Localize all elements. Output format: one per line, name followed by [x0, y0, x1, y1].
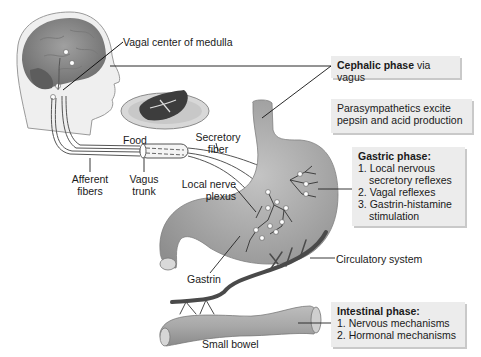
label-secretory-line1: Secretory	[194, 131, 242, 143]
parasympathetics-line2: pepsin and acid production	[337, 114, 466, 126]
label-vagal-center: Vagal center of medulla	[123, 36, 233, 48]
label-small-bowel: Small bowel	[202, 338, 259, 350]
label-secretory-line2: fiber	[194, 143, 242, 155]
label-vagus-line1: Vagus	[124, 173, 164, 185]
gastric-phase-item-1: 1. Local nervous secretory reflexes	[358, 162, 459, 186]
intestinal-phase-item-2: 2. Hormonal mechanisms	[337, 329, 459, 341]
parasympathetics-box: Parasympathetics excite pepsin and acid …	[331, 99, 472, 133]
label-secretory-fiber: Secretory fiber	[194, 131, 242, 155]
gastric-phase-item-3: 3. Gastrin-histamine stimulation	[358, 198, 459, 222]
label-local-nerve-plexus: Local nerve plexus	[180, 178, 236, 202]
cephalic-phase-title: Cephalic phase	[337, 59, 414, 71]
label-gastrin: Gastrin	[187, 273, 221, 285]
label-local-nerve-line1: Local nerve	[180, 178, 236, 190]
gastric-phase-box: Gastric phase: 1. Local nervous secretor…	[352, 147, 465, 226]
food-plate-illustration	[121, 90, 209, 129]
label-afferent-line2: fibers	[66, 185, 114, 197]
cephalic-phase-box: Cephalic phase via vagus	[331, 56, 460, 78]
label-food: Food	[123, 134, 147, 146]
intestinal-phase-item-1: 1. Nervous mechanisms	[337, 317, 459, 329]
vagus-trunk-bundle	[140, 144, 188, 158]
label-vagus-line2: trunk	[124, 185, 164, 197]
parasympathetics-line1: Parasympathetics excite	[337, 102, 466, 114]
label-afferent-fibers: Afferent fibers	[66, 173, 114, 197]
label-local-nerve-line2: plexus	[180, 190, 236, 202]
gastric-phase-title: Gastric phase:	[358, 150, 459, 162]
label-vagus-trunk: Vagus trunk	[124, 173, 164, 197]
label-afferent-line1: Afferent	[66, 173, 114, 185]
label-circulatory-system: Circulatory system	[336, 253, 422, 265]
intestinal-phase-title: Intestinal phase:	[337, 305, 459, 317]
intestinal-phase-box: Intestinal phase: 1. Nervous mechanisms …	[331, 302, 465, 347]
gastric-phase-item-2: 2. Vagal reflexes	[358, 186, 459, 198]
